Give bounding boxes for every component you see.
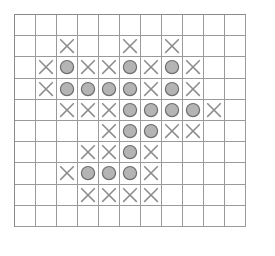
grid-cell-empty[interactable] [120,206,141,227]
grid-cell-o[interactable] [99,163,120,184]
grid-cell-empty[interactable] [36,121,57,142]
grid-cell-o[interactable] [162,79,183,100]
grid-cell-empty[interactable] [78,15,99,36]
grid-cell-o[interactable] [57,57,78,78]
grid-cell-empty[interactable] [225,142,246,163]
grid-cell-empty[interactable] [57,142,78,163]
grid-cell-x[interactable] [120,36,141,57]
grid-cell-empty[interactable] [225,206,246,227]
grid-cell-x[interactable] [141,142,162,163]
grid-cell-o[interactable] [120,142,141,163]
grid-cell-empty[interactable] [36,36,57,57]
grid-cell-empty[interactable] [183,15,204,36]
grid-cell-empty[interactable] [78,121,99,142]
grid-cell-empty[interactable] [15,57,36,78]
grid-cell-x[interactable] [36,57,57,78]
grid-cell-o[interactable] [120,121,141,142]
grid-cell-empty[interactable] [225,36,246,57]
grid-cell-empty[interactable] [57,185,78,206]
grid-cell-x[interactable] [183,79,204,100]
grid-cell-empty[interactable] [57,206,78,227]
grid-cell-x[interactable] [78,142,99,163]
grid-cell-empty[interactable] [204,206,225,227]
grid-cell-o[interactable] [162,100,183,121]
grid-cell-x[interactable] [141,163,162,184]
grid-cell-empty[interactable] [15,163,36,184]
grid-cell-empty[interactable] [15,185,36,206]
grid-cell-x[interactable] [78,185,99,206]
grid-cell-x[interactable] [36,79,57,100]
grid-cell-empty[interactable] [99,206,120,227]
grid-cell-empty[interactable] [99,36,120,57]
grid-cell-empty[interactable] [204,142,225,163]
grid-cell-x[interactable] [99,57,120,78]
grid-cell-empty[interactable] [162,15,183,36]
grid-cell-x[interactable] [141,79,162,100]
grid-cell-o[interactable] [78,79,99,100]
grid-cell-empty[interactable] [57,15,78,36]
grid-cell-empty[interactable] [141,36,162,57]
grid-cell-x[interactable] [99,121,120,142]
grid-cell-o[interactable] [141,100,162,121]
grid-cell-x[interactable] [99,100,120,121]
grid-cell-empty[interactable] [225,100,246,121]
grid-cell-empty[interactable] [15,206,36,227]
grid-cell-empty[interactable] [183,142,204,163]
grid-cell-empty[interactable] [57,121,78,142]
grid-cell-empty[interactable] [15,142,36,163]
grid-cell-empty[interactable] [225,185,246,206]
grid-cell-empty[interactable] [183,36,204,57]
grid-cell-x[interactable] [99,142,120,163]
grid-cell-empty[interactable] [204,185,225,206]
grid-cell-x[interactable] [141,185,162,206]
grid-cell-o[interactable] [57,79,78,100]
grid-cell-empty[interactable] [36,15,57,36]
grid-cell-empty[interactable] [36,185,57,206]
grid-cell-empty[interactable] [15,15,36,36]
grid-cell-o[interactable] [141,121,162,142]
grid-cell-empty[interactable] [36,100,57,121]
grid-cell-empty[interactable] [225,121,246,142]
grid-cell-x[interactable] [78,100,99,121]
grid-cell-empty[interactable] [183,185,204,206]
grid-cell-empty[interactable] [162,163,183,184]
grid-cell-empty[interactable] [141,15,162,36]
grid-cell-empty[interactable] [36,163,57,184]
grid-cell-empty[interactable] [225,15,246,36]
grid-cell-x[interactable] [57,36,78,57]
cell-grid[interactable] [14,14,246,227]
grid-cell-x[interactable] [120,185,141,206]
grid-cell-x[interactable] [204,100,225,121]
grid-cell-empty[interactable] [204,15,225,36]
grid-cell-x[interactable] [78,57,99,78]
grid-cell-o[interactable] [120,163,141,184]
grid-cell-empty[interactable] [15,36,36,57]
grid-cell-empty[interactable] [78,36,99,57]
grid-cell-empty[interactable] [225,57,246,78]
grid-cell-empty[interactable] [15,121,36,142]
grid-cell-empty[interactable] [204,121,225,142]
grid-cell-x[interactable] [57,100,78,121]
grid-cell-empty[interactable] [36,142,57,163]
grid-cell-o[interactable] [78,163,99,184]
grid-cell-o[interactable] [120,79,141,100]
grid-cell-empty[interactable] [183,206,204,227]
grid-cell-empty[interactable] [99,15,120,36]
grid-cell-x[interactable] [141,57,162,78]
grid-cell-empty[interactable] [204,79,225,100]
grid-cell-o[interactable] [99,79,120,100]
grid-cell-empty[interactable] [225,79,246,100]
grid-cell-empty[interactable] [162,206,183,227]
grid-cell-o[interactable] [183,100,204,121]
grid-cell-empty[interactable] [120,15,141,36]
grid-cell-o[interactable] [120,57,141,78]
grid-cell-empty[interactable] [36,206,57,227]
grid-cell-x[interactable] [183,57,204,78]
grid-cell-o[interactable] [120,100,141,121]
grid-cell-o[interactable] [162,57,183,78]
grid-cell-empty[interactable] [183,163,204,184]
grid-cell-empty[interactable] [15,100,36,121]
grid-cell-empty[interactable] [162,185,183,206]
grid-cell-x[interactable] [99,185,120,206]
grid-cell-empty[interactable] [225,163,246,184]
